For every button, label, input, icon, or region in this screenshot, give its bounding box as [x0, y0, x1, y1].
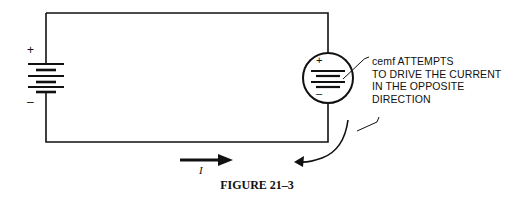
arrowhead-icon: [294, 156, 304, 167]
annotation-line: cemf ATTEMPTS: [372, 55, 501, 68]
cemf-source-symbol: [303, 53, 353, 103]
cemf-annotation: cemf ATTEMPTS TO DRIVE THE CURRENT IN TH…: [372, 55, 501, 105]
annotation-line: TO DRIVE THE CURRENT: [372, 68, 501, 81]
figure-caption: FIGURE 21–3: [220, 178, 294, 192]
annotation-line: DIRECTION: [372, 93, 501, 106]
arrowhead-icon: [218, 154, 233, 166]
opposite-direction-arrow: [300, 120, 348, 162]
battery-minus-sign: –: [27, 95, 34, 109]
battery-symbol: [28, 64, 64, 92]
cemf-minus-sign: –: [316, 87, 322, 99]
annotation-bracket: [357, 117, 379, 131]
circuit-wire: [46, 92, 328, 142]
battery-plus-sign: +: [27, 43, 34, 57]
current-label: I: [199, 164, 203, 176]
annotation-line: IN THE OPPOSITE: [372, 80, 501, 93]
circuit-wire: [46, 13, 328, 53]
cemf-plus-sign: +: [316, 54, 322, 66]
figure-caption-wrap: FIGURE 21–3: [0, 178, 516, 193]
